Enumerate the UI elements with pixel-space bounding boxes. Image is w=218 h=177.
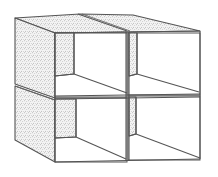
box-bottom-right bbox=[128, 96, 200, 160]
cube-shelf-illustration bbox=[0, 0, 218, 177]
box-top-left bbox=[55, 33, 127, 97]
box-top-right bbox=[128, 33, 200, 95]
left-side-panel bbox=[15, 18, 55, 162]
box-bottom-left bbox=[55, 98, 127, 162]
